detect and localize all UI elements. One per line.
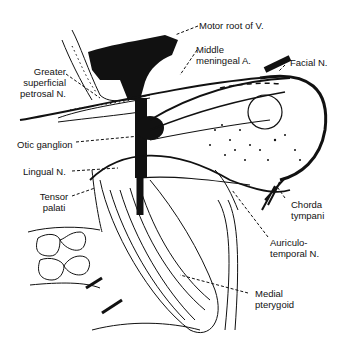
label-tensor-palati-line2: palati (34, 202, 74, 213)
label-middle-meningeal-line2: meningeal A. (196, 55, 251, 66)
label-gsp-line3: petrosal N. (0, 88, 66, 99)
label-facial-nerve: Facial N. (290, 57, 327, 68)
label-gsp-line2: superficial (0, 77, 66, 88)
label-middle-meningeal-line1: Middle (196, 44, 224, 55)
label-motor-root: Motor root of V. (199, 20, 264, 31)
label-otic-ganglion: Otic ganglion (17, 139, 72, 150)
label-chorda-tympani-line1: Chorda (291, 199, 322, 210)
label-tensor-palati-line1: Tensor (34, 191, 74, 202)
trigeminal-ganglion-shape (88, 35, 178, 100)
label-medial-pterygoid-line1: Medial (255, 288, 283, 299)
label-chorda-tympani-line2: tympani (291, 210, 324, 221)
anatomy-illustration (0, 0, 353, 357)
label-gsp-line1: Greater (0, 66, 66, 77)
label-auriculotemporal-line1: Auriculo- (270, 237, 308, 248)
label-auriculotemporal-line2: temporal N. (270, 248, 319, 259)
label-medial-pterygoid-line2: pterygoid (255, 299, 294, 310)
label-lingual-nerve: Lingual N. (23, 166, 66, 177)
